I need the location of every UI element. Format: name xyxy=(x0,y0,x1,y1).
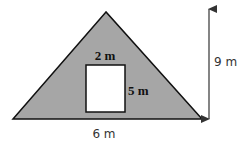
cutout-width-label: 2 m xyxy=(95,48,116,63)
triangle-base-label: 6 m xyxy=(92,127,115,141)
cutout-height-label: 5 m xyxy=(128,83,149,98)
triangle-height-label: 9 m xyxy=(214,55,237,69)
rectangular-cutout xyxy=(86,65,125,112)
composite-shape-diagram: 2 m 5 m 9 m 6 m xyxy=(0,0,238,145)
